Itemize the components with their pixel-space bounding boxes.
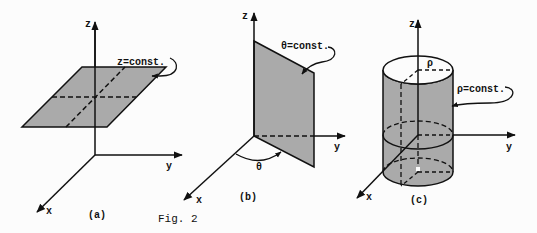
figure-caption: Fig. 2 (158, 213, 198, 225)
axis-label-y-a: y (166, 161, 172, 172)
surface-label-b: θ=const. (281, 41, 329, 52)
surface-label-a: z=const. (117, 57, 165, 68)
axis-label-x-b: x (196, 195, 202, 206)
panel-label-c: (c) (410, 195, 428, 206)
axis-label-z-c: z (409, 19, 415, 30)
figure-svg: z=const. z y x (a) θ=const. θ z y x (b) … (0, 0, 537, 233)
axis-label-x-a: x (46, 206, 52, 217)
panel-c: ρ=const. ρ z y x (c) (357, 19, 515, 206)
x-axis-b (184, 136, 254, 200)
axis-label-x-c: x (366, 192, 372, 203)
axis-label-y-b: y (334, 142, 340, 153)
theta-const-plane (254, 41, 314, 167)
panel-b: θ=const. θ z y x (b) (184, 11, 345, 206)
panel-a: z=const. z y x (a) (22, 19, 182, 221)
figure-canvas: z=const. z y x (a) θ=const. θ z y x (b) … (0, 0, 537, 233)
angle-label-theta: θ (256, 162, 262, 173)
origin-mark (416, 167, 420, 171)
radius-label-rho: ρ (427, 58, 433, 69)
surface-label-c: ρ=const. (457, 84, 505, 95)
panel-label-a: (a) (88, 210, 106, 221)
panel-label-b: (b) (239, 192, 257, 203)
theta-arc (236, 152, 281, 161)
axis-label-z-b: z (242, 11, 248, 22)
x-axis-a (37, 155, 95, 212)
axis-label-y-c: y (506, 142, 512, 153)
axis-label-z-a: z (85, 19, 91, 30)
